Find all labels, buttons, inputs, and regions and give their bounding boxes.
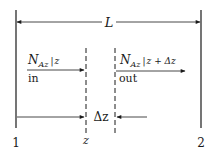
boundary-1-label: 1	[12, 136, 20, 150]
diagram-svg: L NAz|z in NAz|z + Δz out Δz 1 z 2	[0, 0, 214, 154]
in-label: in	[28, 72, 39, 85]
svg-text:NAz|z: NAz|z	[27, 53, 60, 69]
position-z-label: z	[82, 134, 89, 147]
out-label: out	[119, 72, 138, 85]
shell-balance-diagram: L NAz|z in NAz|z + Δz out Δz 1 z 2	[0, 0, 214, 154]
svg-text:NAz|z + Δz: NAz|z + Δz	[119, 53, 176, 69]
flux-in-label: NAz|z	[27, 53, 60, 69]
delta-z-label: Δz	[94, 110, 109, 124]
length-label: L	[104, 15, 114, 30]
boundary-2-label: 2	[197, 136, 205, 150]
flux-out-label: NAz|z + Δz	[119, 53, 176, 69]
